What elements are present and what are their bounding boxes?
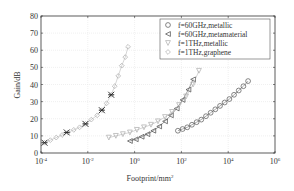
data-point	[128, 139, 133, 144]
y-tick-label: 0	[34, 149, 38, 158]
y-tick-label: 30	[30, 98, 38, 107]
x-tick-label: 104	[223, 157, 234, 166]
x-tick-labels: 10-410-2100102104106	[35, 157, 281, 166]
series-f-60ghz-metallic	[175, 79, 250, 133]
measured-point	[64, 129, 70, 135]
legend-item: f=60GHz,metamaterial	[166, 30, 248, 39]
x-tick-label: 10-2	[82, 157, 95, 166]
x-axis-label: Footprint/mm2	[127, 174, 174, 183]
legend: f=60GHz,metallicf=60GHz,metamaterialf=1T…	[160, 19, 270, 59]
x-tick-label: 10-4	[35, 157, 48, 166]
x-tick-label: 106	[270, 157, 281, 166]
series-layer	[42, 44, 251, 145]
data-point	[197, 68, 202, 73]
legend-label: f=1THz,metallic	[178, 39, 229, 48]
y-tick-label: 50	[30, 63, 38, 72]
series-line	[130, 79, 193, 141]
series-f-60ghz-metamaterial	[128, 77, 196, 143]
legend-label: f=60GHz,metamaterial	[178, 30, 247, 39]
y-tick-label: 10	[30, 132, 38, 141]
x-tick-label: 102	[176, 157, 187, 166]
data-point	[126, 44, 131, 49]
x-axis-label-sup: 2	[171, 174, 174, 179]
y-tick-label: 80	[30, 12, 38, 21]
y-axis-label: Gain/dB	[13, 71, 22, 98]
series-line	[45, 47, 129, 143]
y-tick-label: 20	[30, 115, 38, 124]
gain-vs-footprint-chart: 10-410-2100102104106 01020304050607080 F…	[0, 0, 294, 191]
y-tick-label: 60	[30, 46, 38, 55]
series-line	[109, 71, 199, 138]
legend-label: f=60GHz,metallic	[178, 21, 233, 30]
y-tick-label: 40	[30, 81, 38, 90]
y-tick-labels: 01020304050607080	[30, 12, 38, 158]
y-tick-label: 70	[30, 29, 38, 38]
x-tick-label: 100	[129, 157, 140, 166]
series-f-1thz-graphene	[42, 44, 130, 145]
legend-label: f=1THz,graphene	[178, 48, 232, 57]
